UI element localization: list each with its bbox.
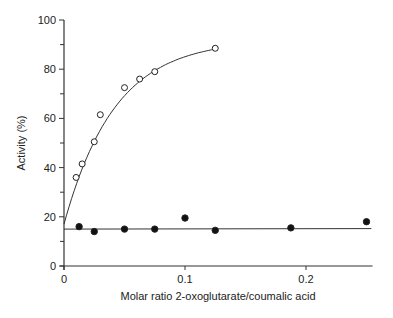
filled-circle-point bbox=[288, 225, 294, 231]
open-circle-point bbox=[79, 161, 85, 167]
data-points bbox=[73, 45, 370, 234]
filled-circle-point bbox=[121, 226, 127, 232]
open-circle-point bbox=[91, 139, 97, 145]
filled-circle-point bbox=[91, 228, 97, 234]
y-tick-label: 100 bbox=[38, 14, 56, 26]
open-circle-point bbox=[122, 85, 128, 91]
y-tick-label: 80 bbox=[44, 63, 56, 75]
saturation-curve bbox=[64, 49, 217, 224]
open-circle-point bbox=[212, 45, 218, 51]
y-tick-label: 60 bbox=[44, 112, 56, 124]
axes: 02040608010000.10.2 bbox=[38, 14, 373, 285]
x-tick-label: 0.2 bbox=[298, 273, 313, 285]
x-tick-label: 0.1 bbox=[177, 273, 192, 285]
fit-lines bbox=[64, 49, 371, 229]
filled-circle-point bbox=[182, 215, 188, 221]
x-axis-label: Molar ratio 2-oxoglutarate/coumalic acid bbox=[120, 290, 315, 302]
y-axis-label: Activity (%) bbox=[15, 116, 27, 171]
open-circle-point bbox=[152, 69, 158, 75]
open-circle-point bbox=[137, 76, 143, 82]
filled-circle-point bbox=[212, 227, 218, 233]
x-tick-label: 0 bbox=[61, 273, 67, 285]
open-circle-point bbox=[73, 174, 79, 180]
y-tick-label: 0 bbox=[50, 260, 56, 272]
filled-circle-point bbox=[152, 226, 158, 232]
filled-circle-point bbox=[76, 223, 82, 229]
y-tick-label: 40 bbox=[44, 162, 56, 174]
open-circle-point bbox=[97, 112, 103, 118]
filled-circle-point bbox=[363, 219, 369, 225]
chart: 02040608010000.10.2 Molar ratio 2-oxoglu… bbox=[0, 0, 393, 318]
y-tick-label: 20 bbox=[44, 211, 56, 223]
